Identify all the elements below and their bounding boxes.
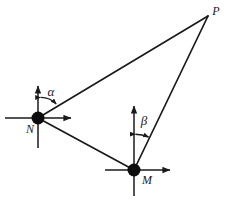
vertex-label-N: N (25, 122, 35, 136)
vertex-label-P: P (211, 4, 220, 18)
edge-N-P (38, 16, 208, 118)
angle-label-beta: β (140, 113, 148, 128)
figure-container: N M P α β (0, 0, 234, 204)
vertex-label-M: M (141, 173, 153, 187)
beta-arc-path (135, 134, 148, 137)
axes-node-M (105, 106, 170, 196)
figure-labels: N M P α β (25, 4, 220, 187)
angle-arc-beta (135, 134, 148, 137)
angle-label-alpha: α (48, 84, 56, 99)
edge-N-M (38, 118, 134, 170)
node-marker-M (128, 164, 141, 177)
triangle-edges (38, 16, 208, 170)
triangle-bearing-diagram-svg: N M P α β (0, 0, 234, 204)
